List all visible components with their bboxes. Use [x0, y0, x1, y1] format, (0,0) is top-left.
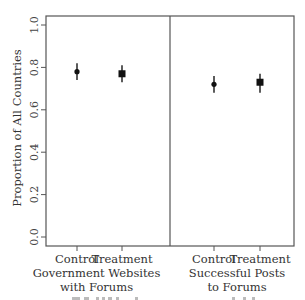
data-point-dot [211, 82, 216, 87]
panels: ControlTreatmentGovernment Websiteswith … [33, 63, 291, 294]
y-tick-label: 1.0 [28, 16, 41, 34]
y-tick-label: 0.4 [28, 143, 41, 161]
data-point-square [119, 70, 126, 77]
x-category-label: Treatment [229, 252, 291, 266]
y-tick-label: 0.6 [28, 101, 41, 119]
panel-title-line: with Forums [60, 280, 133, 294]
y-axis: 0.00.20.40.60.81.0 [28, 16, 46, 246]
data-point-square [257, 79, 264, 86]
data-point-dot [74, 69, 79, 74]
panel-title-line: Government Websites [33, 266, 161, 280]
y-tick-label: 0.2 [28, 186, 41, 204]
panel-2: ControlTreatmentSuccessful Poststo Forum… [189, 74, 291, 294]
panel-title-line: to Forums [207, 280, 266, 294]
y-tick-label: 0.8 [28, 59, 41, 77]
panel-1: ControlTreatmentGovernment Websiteswith … [33, 63, 161, 294]
y-tick-label: 0.0 [28, 228, 41, 246]
panel-title-line: Successful Posts [189, 266, 285, 280]
y-axis-title: Proportion of All Countries [10, 49, 24, 207]
x-category-label: Treatment [91, 252, 153, 266]
plot-frame [46, 16, 294, 246]
chart: 0.00.20.40.60.81.0 Proportion of All Cou… [0, 0, 305, 300]
